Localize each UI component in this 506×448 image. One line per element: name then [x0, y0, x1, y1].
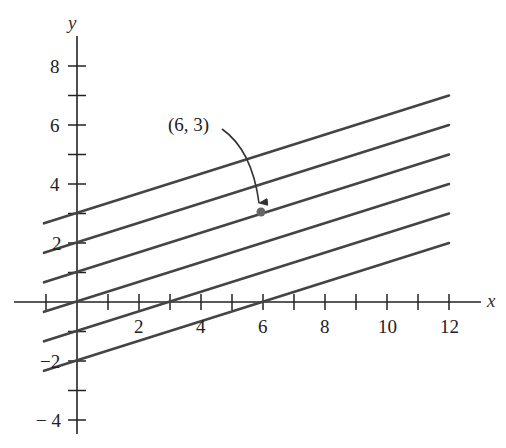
chart: (6, 3) y x 2 4 6 8 10 12 8 6 4 2 −2 − 4	[0, 0, 506, 448]
point-6-3	[257, 208, 266, 217]
x-axis-label: x	[486, 290, 496, 311]
y-tick-label-neg2: −2	[40, 351, 60, 372]
y-tick-label-4: 4	[50, 174, 60, 195]
x-tick-label-4: 4	[196, 316, 206, 337]
y-tick-label-6: 6	[50, 115, 60, 136]
x-tick-label-2: 2	[134, 316, 144, 337]
x-tick-label-8: 8	[320, 316, 330, 337]
y-tick-label-8: 8	[50, 56, 60, 77]
point-label: (6, 3)	[168, 114, 209, 136]
x-tick-label-12: 12	[440, 316, 459, 337]
y-tick-label-2: 2	[52, 233, 62, 254]
y-tick-label-neg4: − 4	[36, 410, 61, 431]
x-tick-label-10: 10	[378, 316, 397, 337]
x-tick-label-6: 6	[258, 316, 268, 337]
y-axis-label: y	[66, 12, 77, 33]
